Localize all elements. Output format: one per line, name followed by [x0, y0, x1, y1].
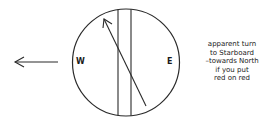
note-line: red on red [196, 74, 268, 83]
west-label: W [76, 57, 85, 66]
needle-arrow-icon [103, 19, 146, 106]
note-line: to Starboard [196, 49, 268, 58]
note-line: –towards North [196, 57, 268, 66]
note-line: apparent turn [196, 40, 268, 49]
west-arrow-icon [15, 57, 58, 67]
annotation-note: apparent turn to Starboard –towards Nort… [196, 40, 268, 83]
compass-circle [73, 9, 180, 116]
note-line: if you put [196, 66, 268, 75]
east-label: E [167, 57, 172, 66]
